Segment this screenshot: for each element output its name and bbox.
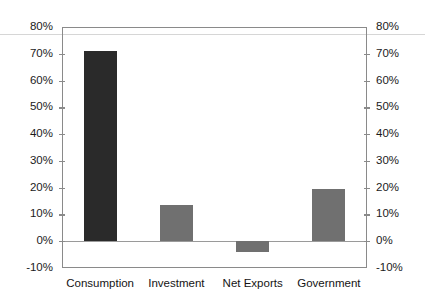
y-tick-label-right: 60% (376, 75, 399, 87)
y-tick-label-right: 50% (376, 101, 399, 113)
bar-government (312, 189, 345, 241)
y-tick-label-left: 60% (30, 75, 53, 87)
y-tick-right (364, 81, 370, 82)
bar-chart: 80%80%70%70%60%60%50%50%40%40%30%30%20%2… (0, 0, 425, 301)
y-tick-label-left: 50% (30, 101, 53, 113)
y-tick-label-left: 40% (30, 128, 53, 140)
y-tick-right (364, 188, 370, 189)
y-tick-label-left: 30% (30, 155, 53, 167)
y-tick-label-left: 80% (30, 21, 53, 33)
y-tick-label-left: 10% (30, 208, 53, 220)
y-tick-right (364, 161, 370, 162)
y-tick-label-right: 70% (376, 48, 399, 60)
y-tick-left (59, 54, 65, 55)
y-tick-left (59, 107, 65, 108)
y-tick-left (59, 188, 65, 189)
zero-baseline (62, 241, 367, 242)
y-tick-label-right: 40% (376, 128, 399, 140)
y-tick-label-right: 0% (376, 235, 393, 247)
y-tick-right (364, 134, 370, 135)
y-tick-label-right: 10% (376, 208, 399, 220)
y-tick-label-left: 70% (30, 48, 53, 60)
bar-net-exports (236, 241, 269, 252)
y-tick-label-left: -10% (26, 262, 53, 274)
y-tick-right (364, 241, 370, 242)
y-tick-label-left: 0% (36, 235, 53, 247)
y-tick-label-right: 30% (376, 155, 399, 167)
bar-consumption (84, 51, 117, 241)
y-tick-label-right: 80% (376, 21, 399, 33)
y-tick-left (59, 161, 65, 162)
y-tick-label-left: 20% (30, 182, 53, 194)
category-label-government: Government (269, 278, 389, 290)
y-tick-right (364, 214, 370, 215)
y-tick-left (59, 241, 65, 242)
y-tick-right (364, 54, 370, 55)
y-tick-left (59, 214, 65, 215)
y-tick-label-right: -10% (376, 262, 403, 274)
y-tick-label-right: 20% (376, 182, 399, 194)
y-tick-left (59, 81, 65, 82)
y-tick-right (364, 107, 370, 108)
y-tick-left (59, 134, 65, 135)
bar-investment (160, 205, 193, 241)
